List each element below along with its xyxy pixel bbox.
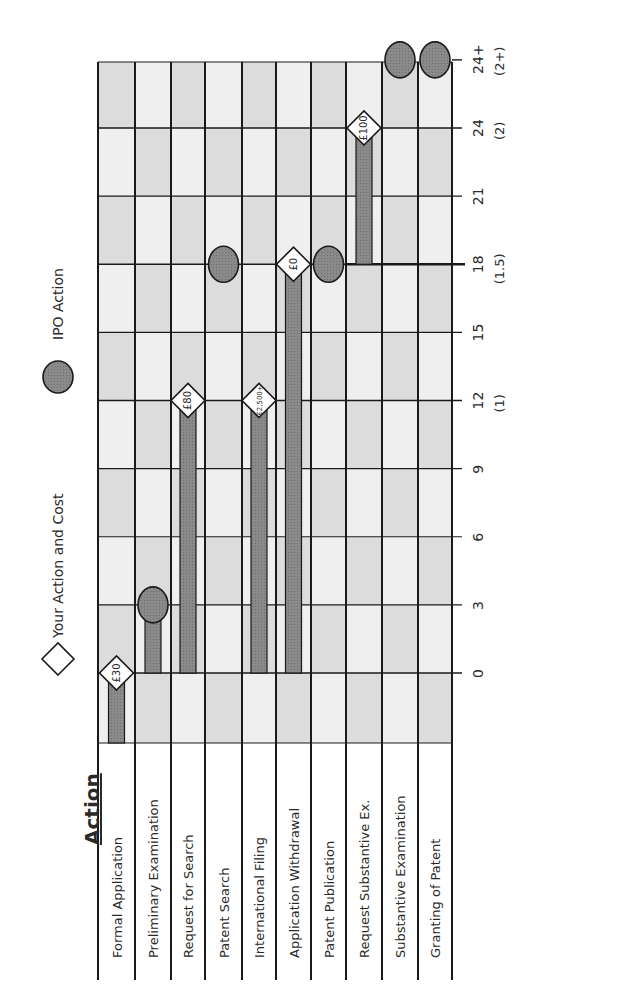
grid-cell [418, 401, 452, 469]
grid-cell [135, 62, 171, 128]
grid-cell [346, 605, 382, 673]
grid-cell [205, 128, 242, 196]
tick-label: 15 [470, 324, 486, 342]
tick-label: 24+ [470, 44, 486, 74]
tick-sublabel: (2+) [492, 47, 507, 76]
tick-label: 21 [470, 187, 486, 205]
grid-cell [205, 605, 242, 673]
grid-cell [98, 196, 135, 264]
grid-cell [242, 673, 276, 743]
grid-cell [311, 605, 346, 673]
grid-cell [98, 332, 135, 400]
tick-label: 24 [470, 119, 486, 137]
grid-cell [311, 62, 346, 128]
grid-cell [418, 264, 452, 332]
grid-cell [346, 332, 382, 400]
grid-cell [418, 537, 452, 605]
ipo-action-circle-icon [385, 42, 415, 78]
grid-cell [242, 128, 276, 196]
circle-legend-icon [43, 361, 73, 393]
action-label: Request Substantive Ex. [357, 800, 372, 958]
grid-cell [98, 264, 135, 332]
action-bar [180, 401, 196, 674]
tick-sublabel: (1) [492, 394, 507, 412]
grid-cell [276, 128, 311, 196]
grid-cell [382, 128, 418, 196]
legend-your-action-label: Your Action and Cost [50, 493, 66, 639]
grid-cell [205, 62, 242, 128]
grid-cell [418, 469, 452, 537]
grid-cell [242, 264, 276, 332]
grid-cell [135, 196, 171, 264]
grid-cell [382, 401, 418, 469]
tick-label: 6 [470, 533, 486, 542]
grid-cell [311, 469, 346, 537]
grid-cell [205, 537, 242, 605]
tick-label: 18 [470, 255, 486, 273]
grid-cell [98, 62, 135, 128]
grid-cell [311, 332, 346, 400]
grid-cell [135, 401, 171, 469]
month-axis: 036912(1)1518(1.5)2124(2)24+(2+) [470, 44, 507, 678]
diamond-legend-icon [42, 643, 74, 675]
tick-sublabel: (2) [492, 122, 507, 140]
action-label: Application Withdrawal [287, 808, 302, 958]
grid-cell [382, 605, 418, 673]
grid-cell [346, 469, 382, 537]
grid-cell [382, 537, 418, 605]
chart-title: Action [80, 773, 104, 845]
grid-cell [346, 264, 382, 332]
action-label: Preliminary Examination [146, 799, 161, 958]
grid-cell [171, 128, 205, 196]
grid-cell [276, 62, 311, 128]
grid-cell [171, 264, 205, 332]
ipo-action-circle-icon [138, 587, 168, 623]
tick-label: 3 [470, 601, 486, 610]
grid-cell [311, 401, 346, 469]
grid-cell [135, 469, 171, 537]
grid-cell [135, 332, 171, 400]
cost-label: £100 [358, 115, 369, 140]
grid-cell [346, 537, 382, 605]
grid-cell [346, 401, 382, 469]
action-bar [286, 264, 302, 673]
grid-cell [418, 673, 452, 743]
grid-cell [382, 196, 418, 264]
grid-cell [382, 332, 418, 400]
legend-ipo-action-label: IPO Action [50, 268, 66, 340]
grid-cell [242, 62, 276, 128]
grid-cell [205, 469, 242, 537]
tick-label: 9 [470, 465, 486, 474]
action-label: Granting of Patent [428, 839, 443, 958]
grid-cell [276, 673, 311, 743]
action-label: Patent Search [217, 868, 232, 958]
action-label: Formal Application [110, 837, 125, 958]
cost-label: £2,500+ [256, 385, 264, 415]
grid-cell [135, 673, 171, 743]
tick-sublabel: (1.5) [492, 253, 507, 284]
grid-cell [171, 673, 205, 743]
action-label: Patent Publication [322, 841, 337, 958]
grid-cell [205, 673, 242, 743]
grid-cell [418, 128, 452, 196]
grid-cell [135, 128, 171, 196]
grid-cell [98, 401, 135, 469]
grid-cell [242, 196, 276, 264]
grid-cell [98, 537, 135, 605]
ipo-action-circle-icon [209, 246, 239, 282]
grid-cell [382, 469, 418, 537]
grid-cell [135, 264, 171, 332]
grid-cell [311, 128, 346, 196]
legend: Your Action and Cost IPO Action [42, 268, 74, 675]
grid-cell [205, 332, 242, 400]
grid-cell [346, 673, 382, 743]
grid-cell [205, 401, 242, 469]
cost-label: £30 [111, 663, 122, 682]
action-bar [356, 128, 372, 264]
grid-cell [171, 196, 205, 264]
grid-cell [98, 469, 135, 537]
grid-cell [311, 537, 346, 605]
action-label: International Filing [252, 837, 267, 958]
grid-cell [98, 128, 135, 196]
grid-cell [418, 196, 452, 264]
